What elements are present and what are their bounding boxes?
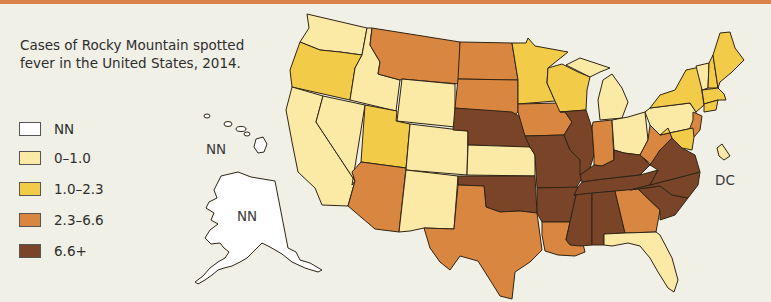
hawaii-label: NN <box>206 141 226 157</box>
dc-label: DC <box>715 172 735 188</box>
state-maine <box>713 32 744 88</box>
state-colorado <box>406 124 468 175</box>
dc-inset <box>717 144 730 160</box>
alaska-label: NN <box>237 208 257 224</box>
state-north-dakota <box>458 42 518 80</box>
state-indiana <box>592 120 614 166</box>
alaska <box>195 172 322 284</box>
state-new-mexico <box>399 170 458 232</box>
us-map <box>0 0 771 302</box>
state-montana <box>370 28 460 84</box>
state-kansas <box>467 145 535 176</box>
state-arizona <box>348 162 406 232</box>
state-wyoming <box>397 79 455 127</box>
state-florida <box>604 232 678 292</box>
